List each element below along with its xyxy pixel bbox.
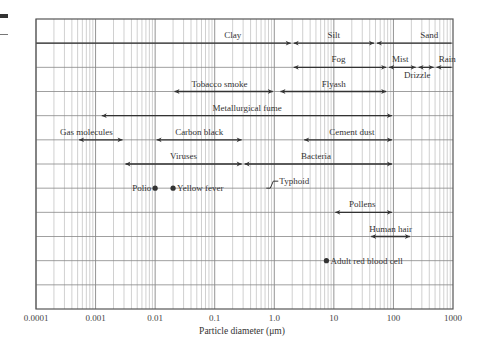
range-label: Mist: [392, 54, 409, 64]
bracket-icon: [266, 181, 278, 188]
range-label: Rain: [439, 54, 456, 64]
range-label: Carbon black: [175, 127, 224, 137]
range-label: Tobacco smoke: [191, 79, 247, 89]
range-sand: Sand: [377, 30, 452, 45]
point-label: Adult red blood cell: [330, 256, 403, 266]
range-viruses: Viruses: [125, 151, 241, 166]
range-label: Cement dust: [329, 127, 375, 137]
x-tick-label: 0.001: [85, 313, 105, 323]
x-tick-label: 10: [329, 313, 338, 323]
range-pollens: Pollens: [335, 199, 392, 214]
range-label: Viruses: [170, 151, 197, 161]
range-label: Human hair: [369, 224, 412, 234]
point-label: Yellow fever: [177, 183, 223, 193]
x-axis-label: Particle diameter (μm): [0, 326, 484, 336]
range-label: Silt: [328, 30, 341, 40]
range-label: Clay: [224, 30, 241, 40]
range-silt: Silt: [294, 30, 374, 45]
range-fog: Fog: [294, 54, 386, 69]
range-mist: Mist: [389, 54, 415, 69]
range-tobacco-smoke: Tobacco smoke: [175, 79, 273, 94]
range-label: Drizzle: [404, 70, 430, 80]
point-polio: Polio: [132, 183, 158, 193]
range-label: Sand: [420, 30, 439, 40]
x-tick-label: 1.0: [269, 313, 280, 323]
range-clay: Clay: [36, 30, 291, 45]
range-label: Metallurgical fume: [213, 103, 282, 113]
particle-size-chart: ClaySiltSandFogMistDrizzleRainTobacco sm…: [0, 0, 484, 355]
point-label: Polio: [132, 183, 152, 193]
x-tick-label: 0.01: [147, 313, 163, 323]
dot-icon: [324, 258, 329, 263]
range-human-hair: Human hair: [369, 224, 412, 239]
range-label: Fog: [332, 54, 347, 64]
range-carbon-black: Carbon black: [157, 127, 242, 142]
x-tick-label: 0.1: [209, 313, 220, 323]
point-label: Typhoid: [279, 176, 309, 186]
x-tick-label: 100: [387, 313, 401, 323]
range-metallurgical-fume: Metallurgical fume: [102, 103, 392, 118]
dot-icon: [153, 186, 158, 191]
point-typhoid: Typhoid: [266, 176, 309, 188]
dot-icon: [170, 186, 175, 191]
range-label: Pollens: [349, 199, 376, 209]
point-yellow-fever: Yellow fever: [170, 183, 223, 193]
range-label: Bacteria: [301, 151, 331, 161]
point-adult-red-blood-cell: Adult red blood cell: [324, 256, 403, 266]
range-cement-dust: Cement dust: [304, 127, 392, 142]
x-tick-label: 1000: [444, 313, 462, 323]
range-label: Gas molecules: [60, 127, 113, 137]
range-label: Flyash: [322, 79, 347, 89]
x-tick-label: 0.0001: [24, 313, 49, 323]
range-flyash: Flyash: [281, 79, 387, 94]
